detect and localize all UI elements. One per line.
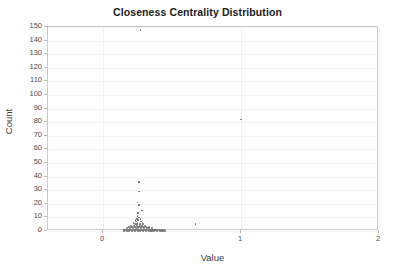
data-point [140, 218, 142, 220]
y-tick-label: 50 [12, 158, 42, 166]
y-tick-label: 40 [12, 172, 42, 180]
scatter-points [48, 27, 377, 229]
x-tick-label: 0 [90, 235, 114, 243]
x-tick-mark [102, 230, 103, 233]
x-axis-title: Value [47, 252, 378, 263]
data-point [141, 210, 143, 212]
y-tick-label: 70 [12, 131, 42, 139]
x-tick-mark [240, 230, 241, 233]
gridline-vertical [379, 27, 380, 229]
data-point [138, 191, 140, 193]
data-point [137, 202, 139, 204]
y-tick-label: 100 [12, 90, 42, 98]
data-point [137, 212, 139, 214]
y-tick-label: 110 [12, 76, 42, 84]
y-tick-label: 90 [12, 104, 42, 112]
y-tick-label: 20 [12, 199, 42, 207]
y-tick-label: 140 [12, 36, 42, 44]
x-tick-mark [378, 230, 379, 233]
y-tick-label: 30 [12, 185, 42, 193]
chart-title: Closeness Centrality Distribution [0, 6, 395, 18]
data-point [240, 119, 242, 121]
data-point [140, 29, 142, 31]
y-tick-label: 60 [12, 144, 42, 152]
data-point [138, 181, 140, 183]
x-tick-label: 2 [366, 235, 390, 243]
data-point [137, 219, 139, 221]
y-tick-label: 80 [12, 117, 42, 125]
data-point [138, 204, 140, 206]
data-point [195, 223, 197, 225]
y-axis-tick-labels: 0102030405060708090100110120130140150 [0, 26, 47, 230]
y-tick-label: 0 [12, 226, 42, 234]
y-tick-label: 150 [12, 22, 42, 30]
y-tick-label: 120 [12, 63, 42, 71]
x-axis-tick-labels: 012 [47, 230, 378, 248]
plot-area [47, 26, 378, 230]
y-tick-label: 130 [12, 49, 42, 57]
x-tick-label: 1 [228, 235, 252, 243]
y-tick-label: 10 [12, 212, 42, 220]
chart-screenshot: Closeness Centrality Distribution Count … [0, 0, 395, 275]
